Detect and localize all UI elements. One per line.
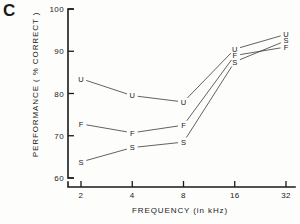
x-tick-group: 2481632 (79, 181, 291, 200)
x-tick-label: 16 (230, 191, 240, 200)
y-tick-label: 60 (54, 174, 64, 183)
data-point-label: U (130, 91, 135, 100)
data-point-label: S (130, 143, 135, 152)
series-segment (138, 126, 178, 132)
data-point-label: U (181, 98, 186, 107)
data-point-label: F (130, 129, 135, 138)
series-segment (187, 60, 232, 121)
y-tick-label: 70 (54, 132, 64, 141)
x-tick-label: 32 (281, 191, 291, 200)
data-point-label: U (78, 75, 83, 84)
data-point-label: S (232, 58, 237, 67)
series-segment (86, 80, 127, 93)
y-tick-label: 90 (54, 47, 64, 56)
series-group: UUUUUFFFFFSSSSS (78, 30, 288, 167)
y-tick-label: 100 (49, 5, 64, 14)
figure-panel-c: C PERFORMANCE ( % CORRECT ) FREQUENCY (i… (0, 0, 300, 224)
series-segment (86, 149, 127, 160)
data-point-label: S (181, 138, 186, 147)
data-point-label: S (78, 158, 83, 167)
x-tick-label: 4 (130, 191, 135, 200)
chart-plot-area: 60708090100 2481632 UUUUUFFFFFSSSSS (0, 0, 300, 224)
x-tick-label: 8 (181, 191, 186, 200)
series-segment (186, 66, 231, 137)
series-segment (240, 43, 281, 60)
series-segment (187, 53, 231, 98)
data-point-label: F (79, 120, 84, 129)
series-segment (138, 96, 178, 101)
data-point-label: S (283, 36, 288, 45)
x-axis-line (68, 182, 295, 187)
series-segment (138, 143, 178, 147)
data-point-label: F (181, 121, 186, 130)
series-segment (240, 36, 281, 48)
y-tick-label: 80 (54, 90, 64, 99)
y-tick-group: 60708090100 (49, 5, 74, 183)
x-tick-label: 2 (79, 191, 84, 200)
series-segment (86, 125, 126, 132)
